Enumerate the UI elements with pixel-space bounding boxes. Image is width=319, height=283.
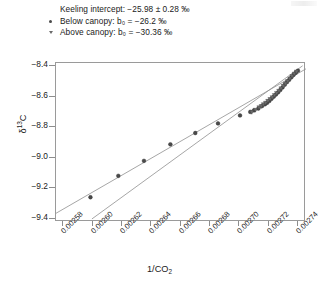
y-tick — [49, 218, 55, 219]
y-tick-label: −8.8 — [2, 120, 48, 130]
legend-row-intercept: Keeling intercept: −25.98 ± 0.28 ‰ — [0, 4, 319, 16]
legend-label-intercept: Keeling intercept: −25.98 ± 0.28 ‰ — [60, 4, 190, 16]
x-axis-title-text: 1/CO2 — [147, 264, 172, 274]
legend-row-below-canopy: Below canopy: b₀ = −26.2 ‰ — [0, 16, 319, 28]
y-tick-label: −8.4 — [2, 59, 48, 69]
y-tick-label: −9.4 — [2, 212, 48, 222]
legend: Keeling intercept: −25.98 ± 0.28 ‰ Below… — [0, 4, 319, 39]
triangle-down-marker-icon — [49, 31, 53, 34]
y-tick-label: −9.0 — [2, 151, 48, 161]
data-point-circle — [142, 159, 146, 163]
x-axis-title: 1/CO2 — [0, 264, 319, 275]
y-tick — [49, 96, 55, 97]
y-tick — [49, 65, 55, 66]
keeling-plot-figure: Keeling intercept: −25.98 ± 0.28 ‰ Below… — [0, 0, 319, 283]
y-tick-label: −8.6 — [2, 90, 48, 100]
y-tick — [49, 126, 55, 127]
data-point-circle — [116, 174, 120, 178]
legend-row-above-canopy: Above canopy: b₀ = −30.36 ‰ — [0, 27, 319, 39]
data-point-circle — [193, 131, 197, 135]
data-point-circle — [216, 121, 220, 125]
regression-line — [92, 66, 303, 219]
legend-label-below-canopy: Below canopy: b₀ = −26.2 ‰ — [60, 16, 167, 28]
data-point-circle — [89, 195, 93, 199]
data-point-circle — [168, 142, 172, 146]
y-tick — [49, 187, 55, 188]
plot-canvas — [56, 63, 306, 222]
data-point-circle — [238, 114, 242, 118]
legend-label-above-canopy: Above canopy: b₀ = −30.36 ‰ — [60, 27, 172, 39]
y-tick — [49, 157, 55, 158]
y-tick-label: −9.2 — [2, 181, 48, 191]
circle-marker-icon — [49, 20, 52, 23]
plot-area — [55, 62, 305, 221]
